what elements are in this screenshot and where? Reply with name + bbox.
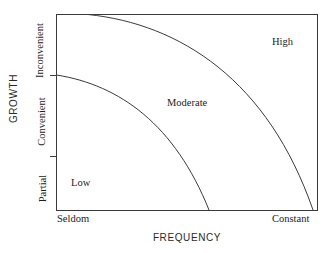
y-tick-label-partial: Partial	[37, 168, 48, 210]
low-moderate-boundary-curve	[57, 75, 210, 210]
x-tick-label-seldom: Seldom	[57, 213, 89, 224]
y-axis-title: GROWTH	[8, 59, 19, 139]
y-tick-label-inconvenient: Inconvenient	[34, 15, 45, 87]
region-label-high: High	[272, 36, 293, 47]
y-tick-label-convenient: Convenient	[36, 91, 47, 153]
growth-frequency-matrix-figure: GROWTH Inconvenient Convenient Partial S…	[0, 0, 335, 253]
x-axis-title: FREQUENCY	[56, 232, 318, 243]
x-tick-label-constant: Constant	[272, 213, 309, 224]
region-label-low: Low	[71, 177, 90, 188]
region-label-moderate: Moderate	[167, 97, 207, 108]
